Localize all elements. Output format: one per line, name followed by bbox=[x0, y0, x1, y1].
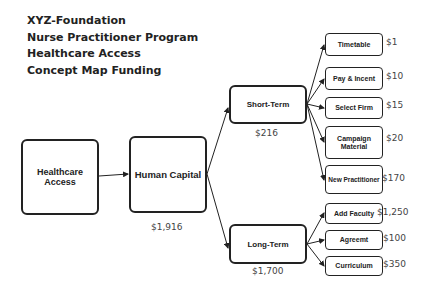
node-select-firm: Select Firm bbox=[325, 97, 383, 119]
node-label: Timetable bbox=[338, 41, 371, 49]
node-campaign-material: Campaign Material bbox=[325, 126, 383, 159]
select-firm-amount: $15 bbox=[386, 100, 403, 110]
node-label: Long-Term bbox=[247, 240, 288, 249]
node-short-term: Short-Term bbox=[229, 85, 307, 124]
agreement-amount: $100 bbox=[383, 233, 406, 243]
node-label: New Practitioner bbox=[328, 176, 379, 184]
node-add-faculty: Add Faculty bbox=[325, 203, 383, 224]
node-label: Add Faculty bbox=[334, 210, 374, 218]
node-timetable: Timetable bbox=[325, 33, 383, 56]
node-label: Pay & Incent bbox=[333, 75, 375, 83]
curriculum-amount: $350 bbox=[383, 259, 406, 269]
node-label: Short-Term bbox=[247, 100, 290, 109]
human-capital-amount: $1,916 bbox=[151, 222, 183, 232]
node-label: Curriculum bbox=[335, 262, 372, 270]
node-label: Agreemt bbox=[340, 236, 368, 244]
node-agreement: Agreemt bbox=[325, 230, 383, 250]
node-curriculum: Curriculum bbox=[325, 256, 383, 276]
long-term-amount: $1,700 bbox=[252, 266, 284, 276]
node-healthcare-access: Healthcare Access bbox=[21, 139, 99, 215]
short-term-amount: $216 bbox=[255, 128, 278, 138]
campaign-material-amount: $20 bbox=[386, 133, 403, 143]
timetable-amount: $1 bbox=[386, 37, 397, 47]
node-label: Campaign Material bbox=[334, 135, 374, 151]
node-label: Human Capital bbox=[135, 169, 202, 180]
new-practitioner-amount: $170 bbox=[382, 173, 405, 183]
node-label: Select Firm bbox=[335, 104, 373, 112]
node-label: Healthcare Access bbox=[35, 167, 85, 187]
node-pay-incent: Pay & Incent bbox=[325, 67, 383, 90]
node-new-practitioner: New Practitioner bbox=[325, 165, 383, 194]
node-human-capital: Human Capital bbox=[129, 136, 207, 213]
pay-incent-amount: $10 bbox=[386, 71, 403, 81]
node-long-term: Long-Term bbox=[229, 224, 307, 264]
add-faculty-amount: $1,250 bbox=[377, 207, 409, 217]
